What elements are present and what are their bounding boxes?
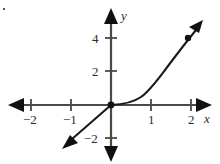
x-tick-label--1: −1 bbox=[63, 113, 77, 126]
x-tick-label--2: −2 bbox=[23, 113, 37, 126]
x-axis-label: x bbox=[204, 112, 210, 125]
curve-upper-right-arrowhead bbox=[189, 20, 203, 33]
x-tick-label-1: 1 bbox=[148, 113, 155, 126]
cubic-curve-branch bbox=[111, 30, 196, 105]
y-tick-label-4: 4 bbox=[92, 32, 99, 45]
graph-figure: −2 −1 1 2 4 2 −2 y x bbox=[0, 0, 220, 164]
x-tick-label-2: 2 bbox=[188, 113, 195, 126]
y-axis-up-arrowhead bbox=[104, 8, 118, 24]
x-axis-left-arrowhead bbox=[8, 98, 24, 112]
y-tick-label-2: 2 bbox=[92, 65, 99, 78]
x-axis-right-arrowhead bbox=[196, 98, 212, 112]
y-axis-down-arrowhead bbox=[104, 146, 118, 162]
point-marker-origin bbox=[108, 102, 115, 109]
y-tick-label--2: −2 bbox=[84, 132, 98, 145]
y-axis-label: y bbox=[121, 9, 127, 22]
coordinate-plane-svg bbox=[0, 0, 220, 164]
point-marker-2-4 bbox=[185, 35, 191, 41]
